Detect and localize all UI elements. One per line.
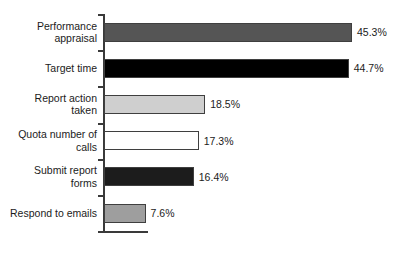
bar-row: Performance appraisal45.3% bbox=[0, 14, 395, 50]
bar-row: Target time44.7% bbox=[0, 50, 395, 86]
bar-container: 7.6% bbox=[104, 195, 175, 231]
bar-container: 44.7% bbox=[104, 50, 383, 86]
bar bbox=[104, 131, 199, 150]
bar-container: 18.5% bbox=[104, 86, 240, 122]
category-axis-foot bbox=[103, 231, 148, 233]
bar-value-label: 7.6% bbox=[151, 207, 175, 219]
bar-row: Respond to emails7.6% bbox=[0, 195, 395, 231]
bar bbox=[104, 167, 194, 186]
bar-row: Report action taken18.5% bbox=[0, 86, 395, 122]
bar-value-label: 44.7% bbox=[354, 62, 384, 74]
category-label: Report action taken bbox=[0, 86, 97, 122]
bar-value-label: 17.3% bbox=[204, 135, 234, 147]
bar-container: 45.3% bbox=[104, 14, 387, 50]
bar-value-label: 16.4% bbox=[199, 171, 229, 183]
bar-row: Quota number of calls17.3% bbox=[0, 123, 395, 159]
bar-value-label: 45.3% bbox=[357, 26, 387, 38]
category-label: Target time bbox=[0, 50, 97, 86]
plot-area: Performance appraisal45.3%Target time44.… bbox=[0, 0, 395, 253]
bar bbox=[104, 23, 352, 42]
bar-value-label: 18.5% bbox=[210, 98, 240, 110]
bar bbox=[104, 95, 205, 114]
bar bbox=[104, 59, 349, 78]
axis-tick bbox=[98, 231, 103, 233]
bar bbox=[104, 204, 146, 223]
bar-row: Submit report forms16.4% bbox=[0, 159, 395, 195]
category-label: Quota number of calls bbox=[0, 123, 97, 159]
bar-chart: Performance appraisal45.3%Target time44.… bbox=[0, 0, 395, 253]
category-label: Submit report forms bbox=[0, 159, 97, 195]
bar-container: 16.4% bbox=[104, 159, 229, 195]
category-label: Performance appraisal bbox=[0, 14, 97, 50]
bar-container: 17.3% bbox=[104, 123, 233, 159]
category-label: Respond to emails bbox=[0, 195, 97, 231]
